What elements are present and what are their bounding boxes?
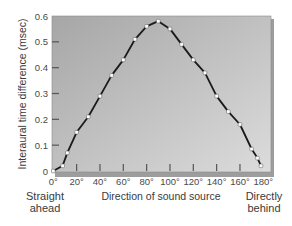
- annotation-ahead: ahead: [30, 202, 61, 214]
- data-point: [180, 43, 184, 47]
- data-point: [168, 27, 172, 31]
- data-point: [61, 164, 65, 168]
- data-point: [145, 25, 149, 29]
- data-point: [256, 156, 260, 160]
- chart: 00.10.20.30.40.50.6 0°20°40°60°80°100°12…: [0, 0, 292, 226]
- plot-area: [52, 16, 271, 172]
- x-tick-label: 100°: [160, 176, 180, 187]
- data-point: [87, 115, 91, 119]
- y-tick-label: 0.4: [35, 62, 48, 73]
- data-point: [215, 94, 219, 98]
- y-tick-label: 0.2: [35, 114, 48, 125]
- annotation-behind: behind: [247, 202, 280, 214]
- y-axis-title: Interaural time difference (msec): [16, 19, 28, 170]
- x-tick-label: 140°: [207, 176, 227, 187]
- data-point: [157, 19, 161, 23]
- x-tick-label: 80°: [139, 176, 154, 187]
- annotation-straight: Straight: [26, 190, 64, 202]
- annotation-directly: Directly: [246, 190, 283, 202]
- data-point: [66, 151, 70, 155]
- data-point: [192, 58, 196, 62]
- x-tick-label: 20°: [69, 176, 84, 187]
- x-tick-label: 120°: [183, 176, 203, 187]
- x-axis-title: Direction of sound source: [101, 190, 220, 202]
- data-point: [52, 169, 56, 173]
- data-point: [227, 110, 231, 114]
- y-tick-label: 0.6: [35, 11, 48, 22]
- x-tick-label: 60°: [116, 176, 131, 187]
- data-point: [259, 164, 263, 168]
- data-point: [203, 71, 207, 75]
- y-tick-label: 0.3: [35, 88, 48, 99]
- x-tick-label: 0°: [49, 176, 58, 187]
- x-tick-label: 180°: [253, 176, 273, 187]
- data-point: [250, 147, 254, 151]
- y-tick-label: 0: [43, 166, 48, 177]
- data-point: [122, 58, 126, 62]
- data-point: [238, 123, 242, 127]
- x-tick-label: 40°: [93, 176, 108, 187]
- y-tick-label: 0.5: [35, 36, 48, 47]
- x-tick-label: 160°: [230, 176, 250, 187]
- data-point: [133, 37, 137, 41]
- data-point: [75, 130, 79, 134]
- data-point: [110, 74, 114, 78]
- y-tick-label: 0.1: [35, 140, 48, 151]
- data-point: [98, 94, 102, 98]
